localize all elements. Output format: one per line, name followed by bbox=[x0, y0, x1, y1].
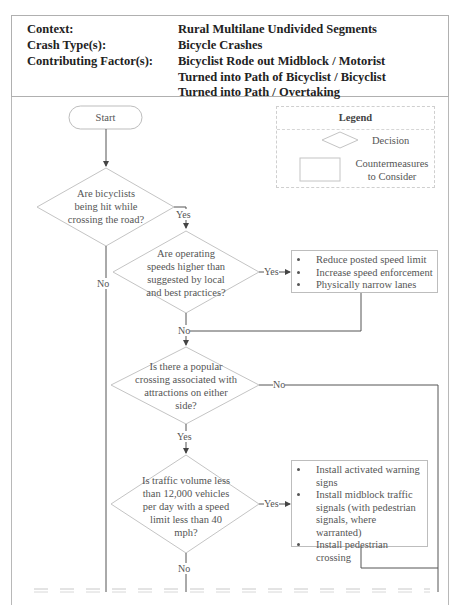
countermeasure-item: Increase speed enforcement bbox=[310, 267, 433, 280]
d3-yes-label: Yes bbox=[177, 431, 192, 442]
countermeasure-item: Install pedestrian crossing bbox=[310, 539, 423, 564]
decision-d4-text: Is traffic volume less than 12,000 vehic… bbox=[124, 474, 248, 539]
countermeasures-box-2: Install activated warning signs Install … bbox=[291, 460, 428, 547]
d2-no-label: No bbox=[178, 325, 190, 336]
decision-d3-text: Is there a popular crossing associated w… bbox=[121, 360, 251, 412]
countermeasure-item: Physically narrow lanes bbox=[310, 279, 433, 292]
d3-no-label: No bbox=[273, 379, 285, 390]
countermeasure-item: Reduce posted speed limit bbox=[310, 254, 433, 267]
legend-title: Legend bbox=[277, 112, 434, 123]
decision-d2-text: Are operating speeds higher than suggest… bbox=[128, 247, 244, 299]
legend-decision-label: Decision bbox=[372, 134, 432, 147]
d2-yes-label: Yes bbox=[264, 266, 279, 277]
legend-countermeasures-label: Countermeasures to Consider bbox=[352, 157, 432, 183]
decision-d1-text: Are bicyclists being hit while crossing … bbox=[56, 187, 156, 226]
countermeasures-box-1: Reduce posted speed limit Increase speed… bbox=[291, 250, 438, 293]
countermeasure-item: Install midblock traffic signals (with p… bbox=[310, 489, 423, 539]
d1-no-label: No bbox=[97, 278, 109, 289]
start-label: Start bbox=[69, 111, 142, 124]
d4-no-label: No bbox=[178, 563, 190, 574]
countermeasure-item: Install activated warning signs bbox=[310, 464, 423, 489]
d4-yes-label: Yes bbox=[264, 498, 279, 509]
legend-divider bbox=[277, 129, 434, 130]
d1-yes-label: Yes bbox=[176, 209, 191, 220]
